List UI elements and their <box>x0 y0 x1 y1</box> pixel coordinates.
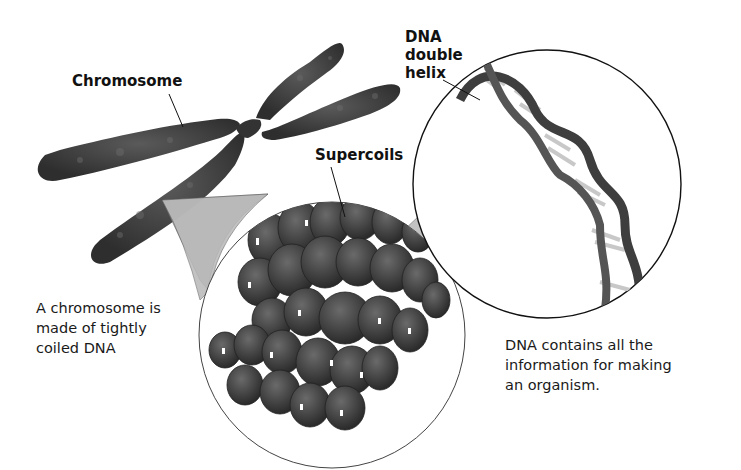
chromosome-caption: A chromosome is made of tightly coiled D… <box>36 298 161 358</box>
diagram-artwork <box>0 0 741 470</box>
chromosome-label: Chromosome <box>72 72 182 90</box>
dna-caption: DNA contains all the information for mak… <box>505 335 672 395</box>
dna-double-helix-label: DNA double helix <box>405 28 463 82</box>
chromosome-leader-line <box>169 94 183 127</box>
supercoils-label: Supercoils <box>315 146 403 164</box>
